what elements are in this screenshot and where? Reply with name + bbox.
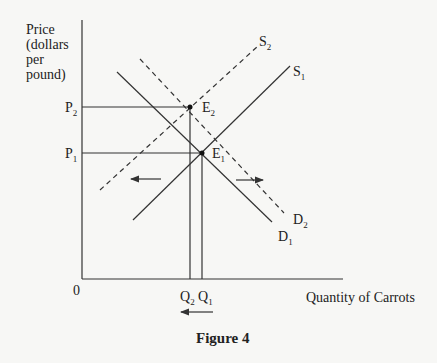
supply-s1-label: S1 <box>293 64 305 85</box>
figure-title: Figure 4 <box>196 330 249 346</box>
y-axis-label: Price (dollars per pound) <box>26 22 69 82</box>
equilibrium-e2-point <box>188 105 193 110</box>
price-p1-label: P1 <box>65 146 77 167</box>
x-axis-label: Quantity of Carrots <box>306 290 415 306</box>
equilibrium-e1-point <box>200 151 205 156</box>
price-p2-label: P2 <box>65 100 77 121</box>
demand-d1-label: D1 <box>278 229 293 250</box>
origin-label: 0 <box>73 283 80 299</box>
equilibrium-e1-label: E1 <box>212 146 225 167</box>
quantity-q1-label: Q1 <box>198 289 213 310</box>
supply-curve-s1 <box>133 66 290 220</box>
demand-d2-label: D2 <box>293 212 308 233</box>
quantity-q2-label: Q2 <box>180 289 195 310</box>
equilibrium-e2-label: E2 <box>202 100 215 121</box>
demand-curve-d1 <box>117 72 272 222</box>
supply-curve-s2 <box>100 46 258 190</box>
demand-curve-d2 <box>140 59 284 213</box>
supply-s2-label: S2 <box>259 34 271 55</box>
